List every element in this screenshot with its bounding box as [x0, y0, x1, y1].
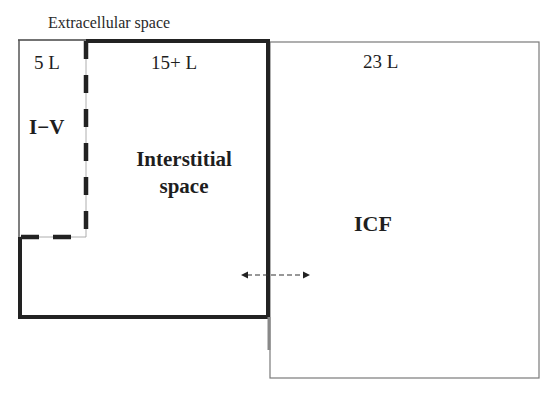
- interstitial-label-line2: space: [118, 173, 250, 200]
- diagram-graphics: [0, 0, 552, 400]
- interstitial-label-line1: Interstitial: [118, 146, 250, 173]
- extracellular-space-title: Extracellular space: [48, 15, 170, 31]
- intravascular-label: I−V: [29, 117, 64, 138]
- fluid-compartment-diagram: Extracellular space 5 L 15+ L 23 L I−V I…: [0, 0, 552, 400]
- interstitial-label: Interstitial space: [118, 146, 250, 200]
- arrow-head-right-icon: [303, 272, 310, 279]
- intravascular-volume: 5 L: [34, 53, 60, 72]
- icf-box: [270, 42, 539, 378]
- interstitial-volume: 15+ L: [151, 53, 197, 72]
- icf-volume: 23 L: [363, 52, 398, 71]
- arrow-head-left-icon: [241, 272, 248, 279]
- icf-label: ICF: [354, 213, 392, 235]
